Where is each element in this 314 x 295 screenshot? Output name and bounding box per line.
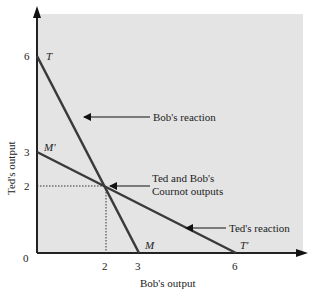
bobs-reaction-label: Bob's reaction [153,111,216,123]
origin-label: 0 [23,252,29,264]
x-tick-6: 6 [232,260,238,272]
point-T-prime-label: T' [240,239,249,251]
y-tick-2: 2 [24,180,30,192]
point-T-label: T [46,50,53,62]
y-tick-6: 6 [24,50,30,62]
cournot-label-line2: Cournot outputs [152,185,223,197]
cournot-label-line1: Ted and Bob's [152,172,214,184]
y-axis-title: Ted's output [5,142,17,195]
x-tick-3: 3 [135,260,141,272]
cournot-diagram: Bob's reaction Ted and Bob's Cournot out… [0,0,314,295]
teds-reaction-label: Ted's reaction [229,222,290,234]
y-axis-arrow-icon [33,6,41,18]
point-M-prime-label: M' [43,141,56,153]
x-axis-title: Bob's output [140,277,195,289]
point-M-label: M [144,239,155,251]
x-tick-2: 2 [102,260,108,272]
y-tick-3: 3 [24,146,30,158]
